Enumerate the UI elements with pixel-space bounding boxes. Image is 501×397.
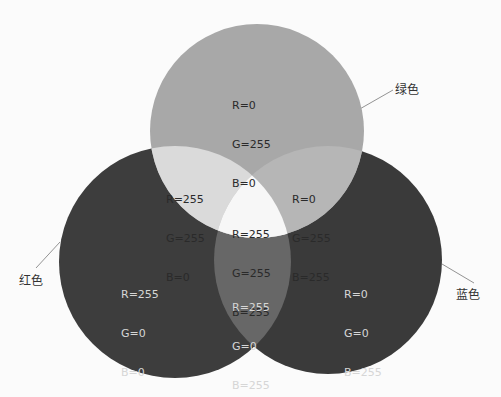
g-value: G=255 xyxy=(166,232,205,245)
green-leader-line xyxy=(358,90,393,110)
g-value: G=255 xyxy=(292,232,331,245)
blue-callout-label: 蓝色 xyxy=(456,285,480,302)
b-value: B=255 xyxy=(344,366,382,379)
g-value: G=0 xyxy=(232,340,270,353)
green-callout-label: 绿色 xyxy=(395,80,419,97)
b-value: B=0 xyxy=(121,366,159,379)
r-value: R=255 xyxy=(166,193,205,206)
red-callout-label: 红色 xyxy=(19,271,43,288)
b-value: B=0 xyxy=(232,177,271,190)
green-rgb-label: R=0 G=255 B=0 xyxy=(232,73,271,203)
red-leader-line xyxy=(36,242,60,268)
r-value: R=255 xyxy=(232,228,271,241)
magenta-rgb-label: R=255 G=0 B=255 xyxy=(232,275,270,397)
red-rgb-label: R=255 G=0 B=0 xyxy=(121,262,159,392)
b-value: B=255 xyxy=(232,379,270,392)
r-value: R=255 xyxy=(232,301,270,314)
r-value: R=0 xyxy=(292,193,331,206)
g-value: G=0 xyxy=(344,327,382,340)
blue-rgb-label: R=0 G=0 B=255 xyxy=(344,262,382,392)
cyan-rgb-label: R=0 G=255 B=255 xyxy=(292,167,331,297)
b-value: B=255 xyxy=(292,271,331,284)
r-value: R=0 xyxy=(232,99,271,112)
blue-leader-line xyxy=(442,264,474,283)
r-value: R=255 xyxy=(121,288,159,301)
yellow-rgb-label: R=255 G=255 B=0 xyxy=(166,167,205,297)
r-value: R=0 xyxy=(344,288,382,301)
g-value: G=0 xyxy=(121,327,159,340)
g-value: G=255 xyxy=(232,138,271,151)
b-value: B=0 xyxy=(166,271,205,284)
